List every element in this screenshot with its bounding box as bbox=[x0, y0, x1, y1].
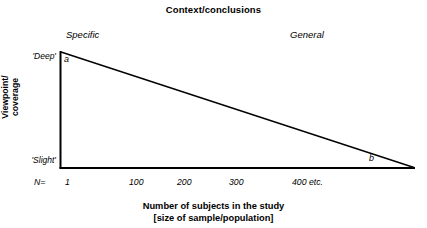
vertex-label-a: a bbox=[64, 54, 69, 64]
triangle-diagram-figure: Context/conclusions Specific General 'De… bbox=[0, 0, 427, 228]
vertex-label-b: b bbox=[369, 153, 374, 163]
hypotenuse-line bbox=[61, 52, 414, 168]
x-axis-tick-400-etc: 400 etc. bbox=[292, 177, 323, 187]
x-axis-tick-200: 200 bbox=[177, 177, 192, 187]
triangle-plot-area bbox=[0, 0, 427, 228]
x-axis-tick-300: 300 bbox=[229, 177, 244, 187]
x-axis-tick-1: 1 bbox=[65, 177, 70, 187]
x-axis-title: Number of subjects in the study [size of… bbox=[0, 201, 427, 224]
x-axis-prefix-label: N= bbox=[34, 177, 45, 187]
x-axis-tick-100: 100 bbox=[129, 177, 144, 187]
